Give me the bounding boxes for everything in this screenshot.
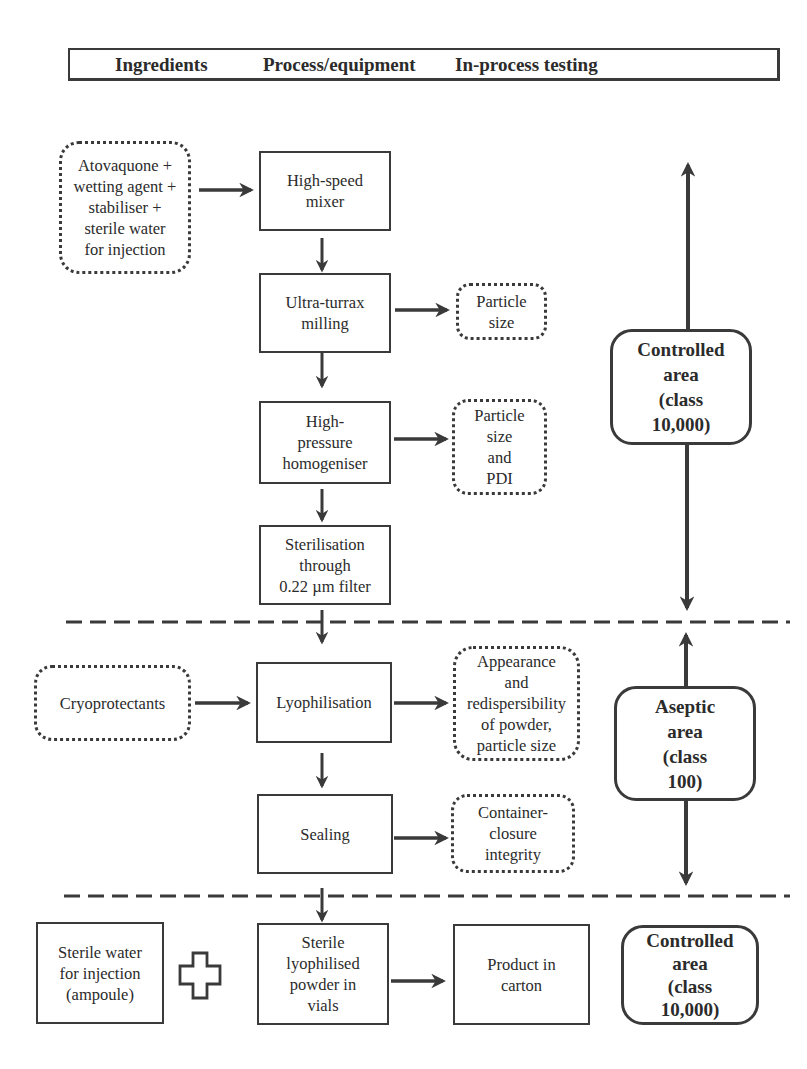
test-appearance-redispersibility: Appearance and redispersibility of powde…: [453, 646, 580, 761]
test-container-closure: Container- closure integrity: [451, 794, 575, 873]
ingredients-cryoprotectants: Cryoprotectants: [34, 665, 191, 741]
process-ultra-turrax-milling: Ultra-turrax milling: [259, 273, 391, 353]
aseptic-area-label: Aseptic area (class 100): [655, 694, 715, 794]
area-controlled-class-10000-top: Controlled area (class 10,000): [610, 329, 752, 445]
sterilisation-label: Sterilisation through 0.22 µm filter: [279, 534, 371, 597]
controlled-area-bottom-label: Controlled area (class 10,000): [646, 929, 733, 1021]
ingredients-main-mix: Atovaquone + wetting agent + stabiliser …: [59, 141, 191, 274]
process-lyophilisation: Lyophilisation: [256, 662, 392, 743]
process-sterilisation-filter: Sterilisation through 0.22 µm filter: [259, 525, 391, 605]
product-carton-label: Product in carton: [487, 954, 555, 996]
high-speed-mixer-label: High-speed mixer: [287, 170, 363, 212]
process-sterile-lyophilised-powder: Sterile lyophilised powder in vials: [257, 923, 389, 1025]
cryoprotectants-label: Cryoprotectants: [60, 693, 165, 714]
process-high-speed-mixer: High-speed mixer: [259, 151, 391, 231]
sterile-water-ampoule-label: Sterile water for injection (ampoule): [58, 942, 142, 1005]
area-controlled-class-10000-bottom: Controlled area (class 10,000): [621, 925, 759, 1025]
sealing-label: Sealing: [300, 824, 350, 845]
container-closure-label: Container- closure integrity: [478, 802, 548, 865]
plus-outline-icon: [180, 953, 220, 998]
controlled-area-top-label: Controlled area (class 10,000): [637, 337, 724, 437]
lyophilisation-label: Lyophilisation: [276, 692, 371, 713]
appearance-label: Appearance and redispersibility of powde…: [467, 651, 566, 756]
ultra-turrax-label: Ultra-turrax milling: [286, 292, 365, 334]
hp-homogeniser-label: High- pressure homogeniser: [282, 411, 367, 474]
test-particle-size-pdi: Particle size and PDI: [452, 399, 547, 495]
ingredients-sterile-water-ampoule: Sterile water for injection (ampoule): [36, 922, 164, 1024]
process-sealing: Sealing: [257, 794, 393, 874]
test-particle-size: Particle size: [456, 283, 547, 340]
particle-size-pdi-label: Particle size and PDI: [474, 405, 524, 489]
particle-size-label: Particle size: [476, 291, 526, 333]
ingredients-main-mix-label: Atovaquone + wetting agent + stabiliser …: [74, 155, 177, 260]
process-hp-homogeniser: High- pressure homogeniser: [259, 401, 391, 484]
sterile-powder-label: Sterile lyophilised powder in vials: [286, 932, 359, 1016]
area-aseptic-class-100: Aseptic area (class 100): [614, 686, 756, 801]
process-product-in-carton: Product in carton: [453, 924, 590, 1025]
